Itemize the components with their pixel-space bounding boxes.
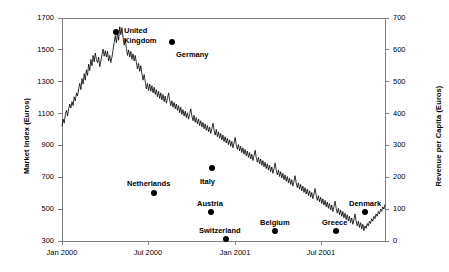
data-point-italy	[209, 165, 215, 171]
data-label-united-kingdom: UnitedKingdom	[124, 26, 157, 45]
data-point-netherlands	[151, 190, 157, 196]
data-label-greece: Greece	[322, 218, 347, 228]
data-label-belgium: Belgium	[260, 218, 290, 228]
data-label-italy: Italy	[200, 177, 215, 187]
data-label-switzerland: Switzerland	[199, 226, 241, 236]
data-point-greece	[333, 228, 339, 234]
data-label-austria: Austria	[197, 199, 223, 209]
data-point-united-kingdom	[113, 29, 119, 35]
data-series-lines	[62, 27, 385, 231]
data-label-netherlands: Netherlands	[127, 179, 170, 189]
data-label-denmark: Denmark	[349, 199, 381, 209]
data-point-austria	[208, 209, 214, 215]
chart-figure: Market Index (Euros) Revenue per Capita …	[0, 0, 449, 272]
series-line-0	[62, 27, 385, 231]
data-label-germany: Germany	[176, 50, 209, 60]
data-point-germany	[169, 39, 175, 45]
annotation-markers	[113, 29, 368, 242]
data-point-belgium	[272, 228, 278, 234]
data-point-denmark	[362, 209, 368, 215]
data-point-switzerland	[223, 236, 229, 242]
